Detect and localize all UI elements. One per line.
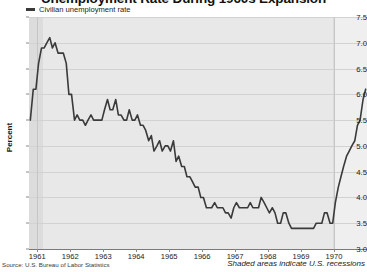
y-axis-tick-label: 7.5	[341, 13, 367, 22]
series-layer	[29, 17, 367, 249]
y-axis-tick-mark	[26, 197, 29, 198]
x-axis-tick-mark	[136, 249, 137, 252]
y-axis-tick-label: 6.0	[341, 90, 367, 99]
x-axis-tick-mark	[70, 249, 71, 252]
y-axis-tick-label: 6.5	[341, 64, 367, 73]
y-axis-tick-mark	[26, 249, 29, 250]
y-axis-tick-mark	[26, 68, 29, 69]
x-axis-tick-label: 1966	[194, 252, 211, 261]
x-axis-tick-mark	[301, 249, 302, 252]
y-axis-tick-mark	[26, 42, 29, 43]
x-axis-tick-label: 1963	[95, 252, 112, 261]
x-axis-tick-mark	[103, 249, 104, 252]
x-axis-tick-mark	[334, 249, 335, 252]
x-axis-tick-label: 1962	[62, 252, 79, 261]
x-axis-tick-mark	[202, 249, 203, 252]
plot-area	[29, 17, 367, 249]
y-axis-tick-label: 5.0	[341, 141, 367, 150]
y-axis-tick-label: 4.5	[341, 167, 367, 176]
chart-legend: Civilian unemployment rate	[26, 5, 131, 14]
y-axis-tick-mark	[26, 94, 29, 95]
y-axis-tick-mark	[26, 223, 29, 224]
y-axis-tick-label: 3.0	[341, 245, 367, 254]
y-axis-label: Percent	[5, 108, 14, 168]
x-axis-tick-mark	[169, 249, 170, 252]
x-axis-tick-label: 1965	[161, 252, 178, 261]
y-axis-tick-mark	[26, 145, 29, 146]
y-axis-tick-label: 3.5	[341, 219, 367, 228]
y-axis-tick-label: 4.0	[341, 193, 367, 202]
x-axis-tick-label: 1964	[128, 252, 145, 261]
y-axis-tick-label: 5.5	[341, 116, 367, 125]
y-axis-tick-mark	[26, 17, 29, 18]
legend-label-civilian-unemployment-rate: Civilian unemployment rate	[39, 5, 131, 14]
x-axis-tick-label: 1961	[29, 252, 46, 261]
x-axis-tick-mark	[235, 249, 236, 252]
chart-root: Unemployment Rate During 1960s Expansion…	[0, 0, 367, 272]
x-axis-tick-mark	[37, 249, 38, 252]
y-axis-tick-label: 7.0	[341, 38, 367, 47]
footer-source: Source: U.S. Bureau of Labor Statistics	[2, 261, 110, 268]
y-axis-tick-mark	[26, 120, 29, 121]
series-line-civilian-unemployment-rate	[30, 38, 365, 229]
x-axis-line	[29, 249, 367, 250]
legend-line-swatch	[26, 8, 35, 11]
footer-recession-note: Shaded areas indicate U.S. recessions	[227, 259, 365, 268]
y-axis-tick-mark	[26, 171, 29, 172]
x-axis-tick-mark	[268, 249, 269, 252]
